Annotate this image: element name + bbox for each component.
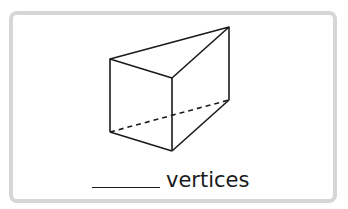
answer-blank[interactable] — [92, 187, 160, 188]
vertices-label: vertices — [166, 168, 249, 192]
prism-bottom-left-front — [110, 132, 172, 151]
answer-row: vertices — [92, 162, 249, 192]
prism-top-face — [110, 27, 229, 78]
